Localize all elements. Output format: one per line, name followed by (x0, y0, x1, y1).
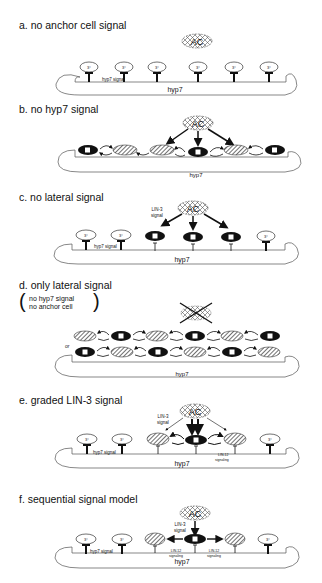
svg-text:AC: AC (189, 509, 202, 519)
panel-a: AC hyp7 hyp7 signal 3° 3° 3° 3° 3° 3° (56, 34, 297, 95)
vpc-row-1 (74, 331, 280, 341)
svg-text:signaling: signaling (215, 458, 229, 462)
crossed-out-anchor-cell (180, 303, 212, 323)
svg-text:LIN-3: LIN-3 (151, 207, 163, 212)
svg-text:AC: AC (192, 119, 205, 129)
svg-text:LIN-12: LIN-12 (209, 549, 220, 553)
svg-text:3°: 3° (84, 537, 88, 542)
svg-text:signaling: signaling (169, 554, 183, 558)
panel-b: AC hyp7 (58, 116, 301, 178)
svg-text:hyp7: hyp7 (174, 558, 189, 566)
svg-text:hyp7 signal: hyp7 signal (93, 450, 116, 455)
anchor-cell: AC (182, 34, 212, 48)
svg-text:3°: 3° (119, 233, 123, 238)
panel-f: AC LIN-3 signal hyp7 hyp7 signal LIN-12 … (55, 506, 299, 568)
svg-text:3°: 3° (120, 437, 124, 442)
svg-text:hyp7: hyp7 (189, 172, 203, 178)
svg-text:3°: 3° (268, 437, 272, 442)
svg-text:hyp7: hyp7 (174, 460, 189, 468)
anchor-cell: AC (180, 506, 210, 520)
anchor-cell: AC (178, 201, 208, 215)
anchor-cell: AC (180, 404, 210, 418)
svg-text:LIN-12: LIN-12 (171, 549, 182, 553)
svg-text:hyp7: hyp7 (175, 371, 189, 377)
svg-text:3°: 3° (84, 233, 88, 238)
hyp7-label: hyp7 (167, 86, 182, 94)
svg-text:3°: 3° (120, 537, 124, 542)
svg-text:3°: 3° (155, 65, 159, 70)
panel-d: or hyp7 (55, 303, 299, 377)
vulval-patterning-diagram: AC hyp7 hyp7 signal 3° 3° 3° 3° 3° 3° AC… (0, 0, 322, 583)
svg-text:3°: 3° (85, 437, 89, 442)
anchor-cell: AC (183, 116, 213, 130)
svg-text:3°: 3° (122, 65, 126, 70)
svg-text:LIN-3: LIN-3 (174, 522, 186, 527)
svg-text:3°: 3° (267, 65, 271, 70)
svg-text:AC: AC (189, 407, 202, 417)
svg-text:AC: AC (191, 37, 204, 47)
hyp7-signal-label: hyp7 signal (102, 77, 125, 82)
vpc-row-2 (75, 347, 280, 357)
panel-c: AC LIN-3 signal hyp7 hyp7 signal 3° 3° 3… (54, 201, 299, 264)
svg-text:hyp7 signal: hyp7 signal (90, 549, 113, 554)
panel-e: AC LIN-3 signal hyp7 hyp7 signal LIN-12 … (55, 404, 299, 468)
svg-text:LIN-12: LIN-12 (218, 453, 229, 457)
svg-text:3°: 3° (87, 65, 91, 70)
svg-text:3°: 3° (264, 234, 268, 239)
svg-text:AC: AC (187, 204, 200, 214)
svg-text:3°: 3° (196, 65, 200, 70)
svg-text:signal: signal (157, 420, 169, 425)
svg-text:3°: 3° (232, 65, 236, 70)
svg-text:hyp7: hyp7 (174, 256, 189, 264)
svg-text:3°: 3° (266, 537, 270, 542)
svg-text:signaling: signaling (207, 554, 221, 558)
svg-text:signal: signal (151, 213, 163, 218)
svg-text:or: or (65, 343, 70, 349)
svg-text:hyp7 signal: hyp7 signal (94, 244, 117, 249)
svg-text:LIN-3: LIN-3 (157, 414, 169, 419)
svg-text:signal: signal (174, 528, 186, 533)
